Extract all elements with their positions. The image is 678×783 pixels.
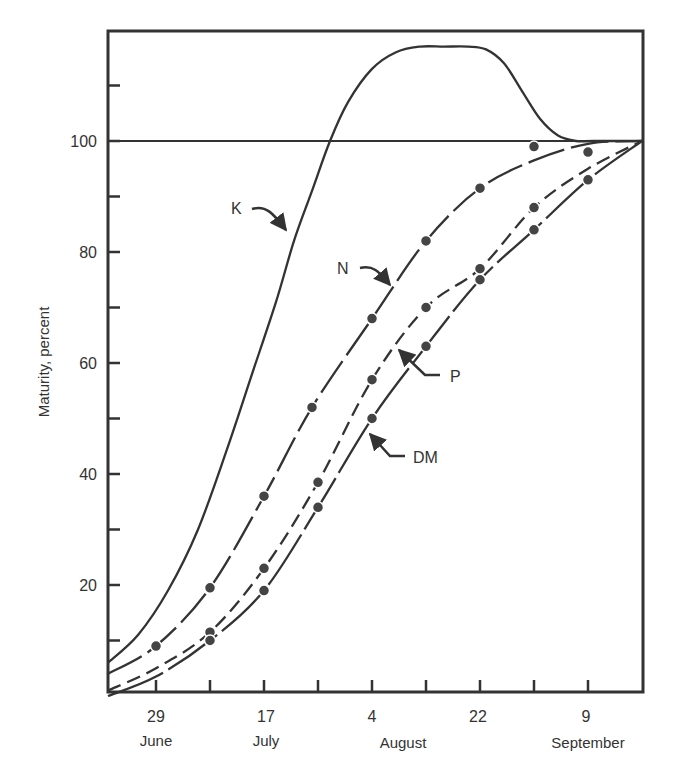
arrow-n-icon	[360, 267, 390, 285]
data-point-dm	[205, 635, 216, 646]
month-label-june: June	[140, 732, 173, 749]
month-label-july: July	[253, 732, 280, 749]
curve-label-p: P	[450, 368, 461, 385]
curve-label-n: N	[337, 260, 349, 277]
data-point-n	[583, 147, 594, 158]
data-point-dm	[529, 224, 540, 235]
curve-label-k: K	[231, 200, 242, 217]
data-point-p	[475, 263, 486, 274]
data-point-n	[367, 313, 378, 324]
arrow-dm-icon	[370, 434, 405, 456]
series-line-n	[108, 141, 642, 674]
x-tick-label-29: 29	[147, 708, 165, 725]
x-axis-ticks	[156, 680, 588, 692]
data-point-dm	[583, 174, 594, 185]
data-point-p	[259, 563, 270, 574]
month-label-september: September	[551, 734, 624, 751]
data-point-p	[367, 374, 378, 385]
data-point-n	[475, 183, 486, 194]
data-point-n	[421, 235, 432, 246]
y-tick-label-60: 60	[79, 355, 97, 372]
data-point-n	[205, 582, 216, 593]
curve-label-dm: DM	[413, 449, 438, 466]
data-point-dm	[367, 413, 378, 424]
data-point-dm	[475, 274, 486, 285]
plot-frame	[108, 31, 643, 692]
maturity-chart: 100 80 60 40 20 Maturity, percent 29 17 …	[0, 0, 678, 783]
data-point-p	[421, 302, 432, 313]
x-tick-label-4: 4	[368, 708, 377, 725]
x-tick-label-22: 22	[469, 708, 487, 725]
data-point-n	[529, 141, 540, 152]
y-tick-label-20: 20	[79, 577, 97, 594]
data-point-n	[151, 641, 162, 652]
y-tick-label-80: 80	[79, 244, 97, 261]
series-layer	[108, 46, 642, 696]
data-point-p	[313, 477, 324, 488]
arrow-k-icon	[252, 208, 286, 230]
data-point-n	[307, 402, 318, 413]
y-axis-label: Maturity, percent	[35, 306, 52, 417]
data-point-n	[259, 491, 270, 502]
data-point-dm	[421, 341, 432, 352]
series-line-k	[108, 46, 642, 663]
x-tick-label-9: 9	[582, 708, 591, 725]
y-tick-label-100: 100	[70, 133, 97, 150]
x-tick-label-17: 17	[257, 708, 275, 725]
y-axis-ticks	[108, 86, 120, 641]
month-label-august: August	[380, 734, 428, 751]
data-point-p	[529, 202, 540, 213]
data-point-dm	[313, 502, 324, 513]
y-tick-label-40: 40	[79, 466, 97, 483]
data-point-dm	[259, 585, 270, 596]
